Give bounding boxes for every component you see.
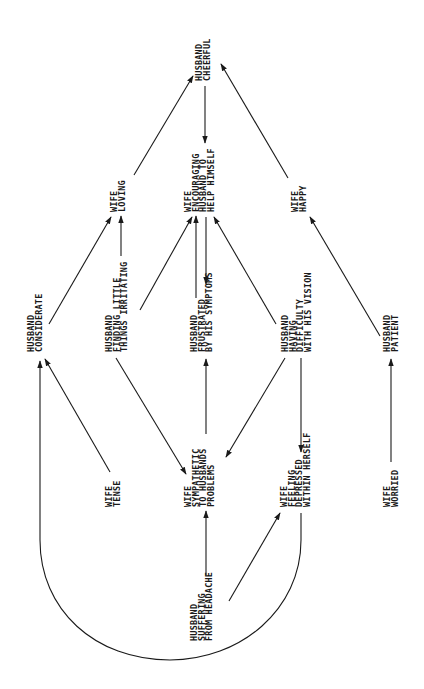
edge-wife-feeling-to-husband-considerate: [40, 361, 301, 660]
edge-husband-finding-to-wife-encouraging: [140, 217, 192, 310]
node-husband-suffering: HUSBAND SUFFERING FROM HEADACHE: [191, 572, 214, 641]
node-wife-tense: WIFE TENSE: [106, 480, 121, 507]
edge-husband-finding-to-wife-sympathetic: [116, 358, 186, 474]
edge-husband-suffering-to-wife-feeling: [229, 513, 280, 601]
node-husband-patient: HUSBAND PATIENT: [384, 315, 399, 352]
node-husband-considerate: HUSBAND CONSIDERATE: [28, 294, 43, 353]
edge-husband-having-to-wife-encouraging: [214, 217, 276, 324]
node-husband-having: HUSBAND HAVING DIFFICULTY WITH HIS VISIO…: [282, 272, 312, 352]
edge-husband-having-to-wife-sympathetic: [226, 358, 285, 457]
node-husband-frustrated: HUSBAND FRUSTRATED BY HIS SYMPTOMS: [191, 272, 214, 352]
node-wife-sympathetic: WIFE SYMPATHETIC TO HUSBANDS PROBLEMS: [185, 449, 215, 508]
edge-wife-tense-to-husband-considerate: [45, 359, 110, 472]
node-husband-finding: HUSBAND FINDING LITTLE THINGS IRRITATING: [106, 262, 129, 352]
node-husband-cheerful: HUSBAND CHEERFUL: [196, 38, 211, 81]
edge-husband-patient-to-wife-happy: [310, 217, 380, 336]
node-wife-happy: WIFE HAPPY: [292, 185, 307, 212]
node-wife-loving: WIFE LOVING: [111, 180, 126, 212]
edge-husband-considerate-to-wife-loving: [49, 217, 111, 324]
node-wife-worried: WIFE WORRIED: [384, 470, 399, 507]
edge-wife-happy-to-husband-cheerful: [221, 64, 288, 178]
node-wife-encouraging: WIFE ENCOURAGING HUSBAND TO HELP HIMSELF: [185, 148, 215, 212]
node-wife-feeling: WIFE FEELING DEPRESSED WITHIN HERSELF: [281, 433, 311, 507]
